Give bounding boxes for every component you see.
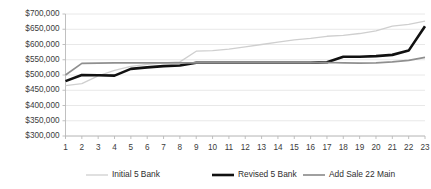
x-axis-tick-labels: 1234567891011121314151617181920212223	[63, 143, 430, 152]
x-axis-tick-label: 13	[257, 143, 267, 152]
x-axis-tick-label: 16	[306, 143, 316, 152]
x-axis-tick-label: 19	[355, 143, 365, 152]
x-axis-tick-label: 23	[420, 143, 430, 152]
y-axis-tick-label: $400,000	[25, 101, 60, 110]
y-axis-tick-label: $300,000	[25, 131, 60, 140]
y-axis-tick-label: $650,000	[25, 24, 60, 33]
x-axis-tick-label: 2	[80, 143, 85, 152]
x-axis-tick-label: 9	[194, 143, 199, 152]
chart-legend: Initial 5 BankRevised 5 BankAdd Sale 22 …	[86, 169, 395, 179]
x-axis-tick-label: 11	[225, 143, 234, 152]
x-axis-tick-label: 10	[208, 143, 218, 152]
y-axis-tick-label: $700,000	[25, 9, 60, 18]
legend-label-1: Revised 5 Bank	[238, 169, 297, 179]
x-axis-tick-label: 4	[112, 143, 117, 152]
y-axis-tick-label: $600,000	[25, 40, 60, 49]
line-chart: $700,000$650,000$600,000$550,000$500,000…	[0, 0, 431, 189]
x-axis-tick-label: 21	[388, 143, 398, 152]
x-axis-tick-label: 15	[290, 143, 300, 152]
y-axis-tick-label: $350,000	[25, 116, 60, 125]
x-axis-tick-label: 5	[129, 143, 134, 152]
series-line-0	[66, 21, 426, 86]
x-axis-tick-label: 3	[96, 143, 101, 152]
y-axis-tick-label: $500,000	[25, 70, 60, 79]
y-axis-tick-label: $550,000	[25, 55, 60, 64]
x-axis-tick-label: 7	[161, 143, 166, 152]
legend-label-2: Add Sale 22 Main	[329, 169, 395, 179]
x-axis-tick-label: 22	[404, 143, 414, 152]
y-axis-tick-labels: $700,000$650,000$600,000$550,000$500,000…	[25, 9, 60, 140]
x-axis-tick-label: 17	[322, 143, 332, 152]
x-axis-tick-label: 12	[241, 143, 251, 152]
data-series	[66, 21, 426, 86]
legend-label-0: Initial 5 Bank	[112, 169, 161, 179]
x-axis-tick-label: 14	[273, 143, 283, 152]
chart-canvas: $700,000$650,000$600,000$550,000$500,000…	[0, 0, 431, 189]
x-axis-tick-label: 8	[178, 143, 183, 152]
x-axis-tick-label: 6	[145, 143, 150, 152]
y-axis-tick-label: $450,000	[25, 85, 60, 94]
series-line-1	[66, 26, 426, 81]
x-axis-tick-label: 20	[371, 143, 381, 152]
x-axis-tick-label: 1	[63, 143, 68, 152]
x-axis-tick-label: 18	[339, 143, 349, 152]
